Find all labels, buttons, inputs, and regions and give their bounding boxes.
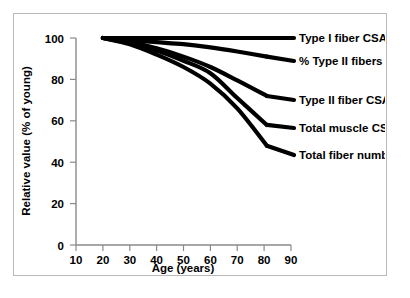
y-tick-label-60: 60 [51, 115, 64, 127]
series-leader-3 [267, 125, 294, 128]
y-tick-label-40: 40 [51, 157, 64, 169]
x-tick-label-10: 10 [70, 254, 83, 266]
y-axis-title: Relative value (% of young) [20, 66, 32, 216]
figure-container: 100 80 60 40 20 0 10 20 30 40 [0, 0, 410, 298]
y-tick-label-80: 80 [51, 74, 64, 86]
y-axis-ticks [70, 38, 76, 245]
series-leader-1 [267, 57, 294, 61]
series-label-total-fiber-number: Total fiber number [299, 149, 385, 161]
series-label-type-i-fiber-csa: Type I fiber CSA [299, 32, 385, 44]
x-axis-title: Age (years) [152, 262, 215, 274]
series-label-total-muscle-csa: Total muscle CSA [299, 122, 385, 134]
x-tick-label-20: 20 [97, 254, 110, 266]
x-tick-label-90: 90 [285, 254, 298, 266]
y-tick-label-20: 20 [51, 198, 64, 210]
series-label-pct-type-ii-fibers: % Type II fibers [299, 55, 383, 67]
y-tick-label-0: 0 [58, 240, 64, 252]
series-label-type-ii-fiber-csa: Type II fiber CSA [299, 94, 385, 106]
x-tick-label-30: 30 [123, 254, 136, 266]
x-tick-label-70: 70 [231, 254, 244, 266]
series-leader-4 [267, 146, 294, 155]
y-tick-label-100: 100 [45, 33, 64, 45]
figure-frame: 100 80 60 40 20 0 10 20 30 40 [13, 13, 387, 276]
series-leader-2 [267, 96, 294, 100]
x-axis-ticks [76, 245, 291, 251]
x-tick-label-80: 80 [258, 254, 271, 266]
line-chart: 100 80 60 40 20 0 10 20 30 40 [14, 14, 385, 274]
data-series-group [103, 38, 294, 155]
